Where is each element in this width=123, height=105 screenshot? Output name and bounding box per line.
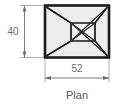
- height-dimension-group: 40: [7, 6, 43, 58]
- width-dimension-group: 52: [45, 59, 109, 82]
- arrowhead-up-icon: [23, 6, 27, 12]
- arrowhead-down-icon: [23, 52, 27, 58]
- plan-drawing-canvas: 40 52 Plan: [0, 0, 123, 105]
- arrowhead-right-icon: [103, 76, 109, 80]
- figure-caption: Plan: [66, 89, 88, 101]
- height-dimension-label: 40: [7, 26, 19, 37]
- plan-body-group: [45, 6, 109, 58]
- plan-drawing-figure: 40 52 Plan: [0, 0, 123, 105]
- arrowhead-left-icon: [45, 76, 51, 80]
- width-dimension-label: 52: [71, 63, 83, 74]
